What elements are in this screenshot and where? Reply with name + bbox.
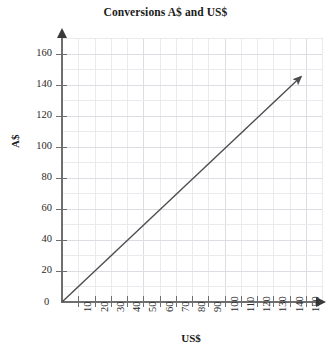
y-tick-label: 100 <box>0 140 52 151</box>
gridline-vertical <box>257 38 258 302</box>
gridline-horizontal <box>62 131 322 132</box>
x-tick-label: 130 <box>277 296 288 312</box>
gridline-horizontal <box>62 69 322 70</box>
gridline-vertical <box>241 38 242 302</box>
y-axis-title: A$ <box>9 135 21 148</box>
x-tick-label: 80 <box>196 302 207 313</box>
gridline-vertical <box>322 38 323 302</box>
gridline-horizontal <box>62 286 322 287</box>
x-tick-label: 90 <box>212 302 223 313</box>
x-tick-mark <box>160 296 161 307</box>
gridline-vertical <box>143 38 144 302</box>
y-tick-mark <box>56 147 67 148</box>
gridline-horizontal <box>62 271 322 272</box>
gridline-vertical <box>306 38 307 302</box>
x-tick-mark <box>111 296 112 307</box>
x-tick-mark <box>143 296 144 307</box>
x-tick-label: 60 <box>164 302 175 313</box>
y-axis-arrow-icon <box>57 28 67 38</box>
x-tick-mark <box>273 296 274 307</box>
origin-label: 0 <box>44 296 49 307</box>
gridline-vertical <box>273 38 274 302</box>
y-tick-label: 140 <box>0 78 52 89</box>
y-tick-label: 160 <box>0 47 52 58</box>
x-tick-mark <box>290 296 291 307</box>
gridline-horizontal <box>62 209 322 210</box>
gridline-vertical <box>192 38 193 302</box>
gridline-horizontal <box>62 193 322 194</box>
y-tick-mark <box>56 178 67 179</box>
gridline-vertical <box>290 38 291 302</box>
chart-page: Conversions A$ and US$ 20406080100120140… <box>0 0 331 352</box>
y-tick-mark <box>56 271 67 272</box>
gridline-vertical <box>208 38 209 302</box>
y-tick-mark <box>56 54 67 55</box>
x-tick-label: 50 <box>147 302 158 313</box>
gridline-vertical <box>78 38 79 302</box>
x-tick-label: 20 <box>99 302 110 313</box>
gridline-vertical <box>225 38 226 302</box>
x-tick-mark <box>192 296 193 307</box>
x-tick-label: 30 <box>115 302 126 313</box>
x-tick-mark <box>127 296 128 307</box>
x-tick-label: 110 <box>245 297 256 312</box>
x-tick-mark <box>208 296 209 307</box>
gridline-horizontal <box>62 162 322 163</box>
y-tick-mark <box>56 116 67 117</box>
x-tick-mark <box>306 296 307 307</box>
gridline-vertical <box>127 38 128 302</box>
x-tick-label: 70 <box>180 302 191 313</box>
gridline-horizontal <box>62 147 322 148</box>
gridline-horizontal <box>62 178 322 179</box>
x-tick-mark <box>176 296 177 307</box>
y-tick-mark <box>56 209 67 210</box>
y-tick-label: 60 <box>0 202 52 213</box>
x-tick-label: 10 <box>82 302 93 313</box>
plot-area <box>62 38 322 302</box>
chart-title: Conversions A$ and US$ <box>0 6 331 18</box>
gridline-horizontal <box>62 116 322 117</box>
gridline-horizontal <box>62 54 322 55</box>
x-tick-mark <box>225 296 226 307</box>
x-tick-mark <box>78 296 79 307</box>
x-tick-mark <box>257 296 258 307</box>
x-tick-mark <box>241 296 242 307</box>
y-tick-label: 120 <box>0 109 52 120</box>
gridline-horizontal <box>62 85 322 86</box>
x-tick-label: 140 <box>294 296 305 312</box>
y-tick-label: 80 <box>0 171 52 182</box>
y-axis-line <box>61 36 63 303</box>
gridline-horizontal <box>62 240 322 241</box>
y-tick-label: 40 <box>0 233 52 244</box>
gridline-horizontal <box>62 38 322 39</box>
gridline-vertical <box>160 38 161 302</box>
x-tick-label: 150 <box>310 296 321 312</box>
gridline-vertical <box>95 38 96 302</box>
x-tick-label: 40 <box>131 302 142 313</box>
gridline-horizontal <box>62 255 322 256</box>
y-tick-label: 20 <box>0 264 52 275</box>
y-tick-mark <box>56 240 67 241</box>
gridline-vertical <box>111 38 112 302</box>
gridline-vertical <box>176 38 177 302</box>
gridline-horizontal <box>62 100 322 101</box>
gridline-horizontal <box>62 224 322 225</box>
x-tick-mark <box>95 296 96 307</box>
x-axis-title: US$ <box>62 332 320 344</box>
x-tick-label: 100 <box>229 296 240 312</box>
x-tick-label: 120 <box>261 296 272 312</box>
y-tick-mark <box>56 85 67 86</box>
